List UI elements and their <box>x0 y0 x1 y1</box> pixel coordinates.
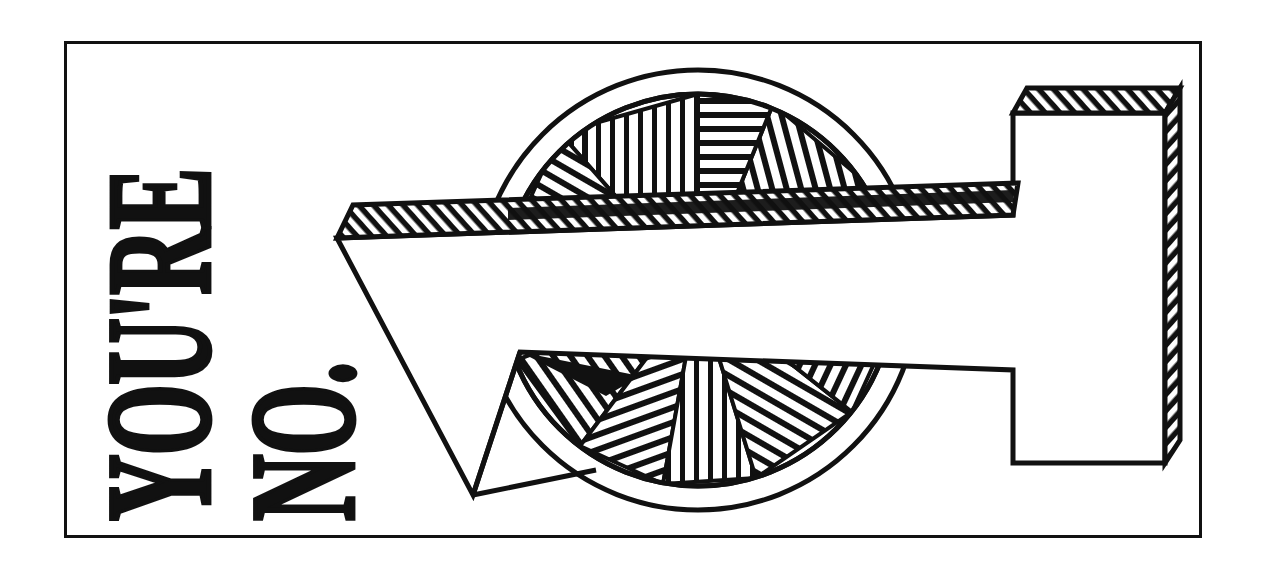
headline-block: YOU'RE NO. <box>78 55 348 525</box>
illustration-canvas: YOU'RE NO. <box>0 0 1264 577</box>
key-bow-top-bevel <box>1013 88 1180 113</box>
headline-line-2: NO. <box>228 363 377 521</box>
headline-line-1: YOU'RE <box>84 169 233 521</box>
key-bow-right-bevel <box>1165 88 1180 463</box>
